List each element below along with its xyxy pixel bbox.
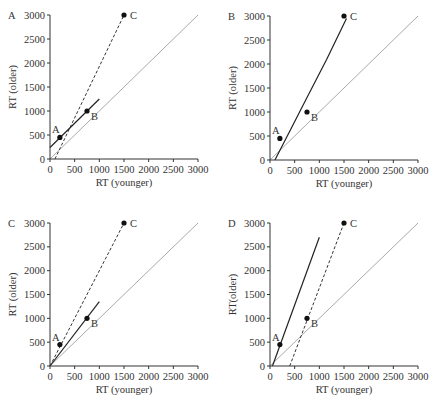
- point-label-a: A: [272, 332, 280, 343]
- x-tick-label: 2500: [163, 371, 184, 382]
- y-tick-label: 0: [260, 361, 265, 372]
- y-tick-label: 2500: [24, 34, 45, 45]
- solid-fit-line: [50, 99, 99, 147]
- data-point-b: [304, 109, 309, 114]
- y-tick-label: 2000: [244, 265, 265, 276]
- x-tick-label: 0: [47, 164, 52, 175]
- point-label-c: C: [130, 218, 137, 229]
- panel-d: 0500100015002000250030000500100015002000…: [227, 218, 429, 397]
- panel-letter: B: [228, 11, 235, 22]
- data-point-a: [277, 136, 282, 141]
- x-tick-label: 3000: [188, 164, 209, 175]
- y-tick-label: 500: [29, 337, 45, 348]
- x-tick-label: 0: [267, 371, 272, 382]
- y-tick-label: 3000: [244, 218, 265, 229]
- identity-line: [270, 223, 418, 366]
- x-tick-label: 3000: [408, 165, 429, 176]
- point-label-b: B: [91, 111, 98, 122]
- panel-a: 0500100015002000250030000500100015002000…: [7, 10, 209, 190]
- y-tick-label: 1500: [244, 83, 265, 94]
- x-tick-label: 3000: [188, 371, 209, 382]
- y-tick-label: 2500: [244, 35, 265, 46]
- y-tick-label: 3000: [244, 11, 265, 22]
- point-label-c: C: [350, 218, 357, 229]
- y-tick-label: 2000: [24, 265, 45, 276]
- y-tick-label: 3000: [24, 218, 45, 229]
- point-label-b: B: [311, 318, 318, 329]
- data-point-c: [341, 13, 346, 18]
- x-axis-label: RT (younger): [96, 384, 153, 396]
- x-tick-label: 500: [67, 164, 83, 175]
- y-tick-label: 500: [249, 337, 265, 348]
- x-tick-label: 1500: [114, 164, 135, 175]
- x-tick-label: 1000: [309, 371, 330, 382]
- x-tick-label: 500: [67, 371, 83, 382]
- x-tick-label: 2000: [138, 371, 159, 382]
- x-axis-label: RT (younger): [316, 178, 373, 190]
- x-tick-label: 1000: [309, 165, 330, 176]
- y-tick-label: 0: [40, 154, 45, 165]
- figure-four-panel-scatter: 0500100015002000250030000500100015002000…: [0, 0, 436, 407]
- curved-fit-line: [275, 18, 347, 160]
- data-point-c: [121, 220, 126, 225]
- y-tick-label: 0: [40, 361, 45, 372]
- data-point-c: [121, 12, 126, 17]
- x-tick-label: 1000: [89, 164, 110, 175]
- x-tick-label: 2500: [163, 164, 184, 175]
- y-tick-label: 1000: [24, 313, 45, 324]
- x-axis-label: RT (younger): [96, 177, 153, 189]
- panel-c: 0500100015002000250030000500100015002000…: [7, 218, 209, 397]
- y-axis-label: RT (older): [7, 65, 19, 109]
- x-tick-label: 500: [287, 371, 303, 382]
- y-tick-label: 0: [260, 155, 265, 166]
- x-tick-label: 0: [267, 165, 272, 176]
- point-label-a: A: [52, 124, 60, 135]
- y-tick-label: 1500: [244, 289, 265, 300]
- identity-line: [50, 223, 198, 366]
- identity-line: [50, 15, 198, 159]
- y-tick-label: 1500: [24, 289, 45, 300]
- y-axis-label: RT (older): [227, 66, 239, 110]
- y-tick-label: 1500: [24, 82, 45, 93]
- data-point-a: [57, 342, 62, 347]
- y-tick-label: 500: [29, 130, 45, 141]
- y-tick-label: 3000: [24, 10, 45, 21]
- y-tick-label: 1000: [244, 313, 265, 324]
- y-axis-label: RT (older): [7, 272, 19, 316]
- x-tick-label: 0: [47, 371, 52, 382]
- data-point-b: [84, 108, 89, 113]
- x-tick-label: 500: [287, 165, 303, 176]
- x-tick-label: 1000: [89, 371, 110, 382]
- y-tick-label: 1000: [24, 106, 45, 117]
- x-tick-label: 2000: [358, 371, 379, 382]
- x-tick-label: 2000: [358, 165, 379, 176]
- y-tick-label: 2500: [244, 241, 265, 252]
- y-axis-label: RT(older): [227, 273, 239, 315]
- x-tick-label: 2500: [383, 371, 404, 382]
- point-label-a: A: [52, 332, 60, 343]
- x-tick-label: 2500: [383, 165, 404, 176]
- panel-letter: D: [228, 218, 236, 229]
- x-tick-label: 2000: [138, 164, 159, 175]
- point-label-a: A: [272, 125, 280, 136]
- point-label-c: C: [130, 10, 137, 21]
- data-point-b: [84, 316, 89, 321]
- x-tick-label: 1500: [334, 371, 355, 382]
- y-tick-label: 2000: [244, 59, 265, 70]
- identity-line: [270, 16, 418, 160]
- x-tick-label: 1500: [334, 165, 355, 176]
- y-tick-label: 2500: [24, 241, 45, 252]
- data-point-b: [304, 316, 309, 321]
- panel-b: 0500100015002000250030000500100015002000…: [227, 11, 429, 191]
- y-tick-label: 2000: [24, 58, 45, 69]
- panel-letter: A: [8, 10, 16, 21]
- data-point-c: [341, 220, 346, 225]
- x-axis-label: RT (younger): [316, 384, 373, 396]
- x-tick-label: 1500: [114, 371, 135, 382]
- panel-letter: C: [8, 218, 15, 229]
- y-tick-label: 500: [249, 131, 265, 142]
- x-tick-label: 3000: [408, 371, 429, 382]
- data-point-a: [57, 135, 62, 140]
- dashed-fit-line: [55, 15, 124, 159]
- y-tick-label: 1000: [244, 107, 265, 118]
